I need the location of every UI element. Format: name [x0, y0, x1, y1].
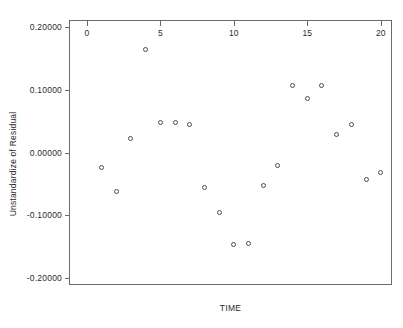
data-point [334, 132, 339, 137]
data-point [349, 122, 354, 127]
data-point [114, 189, 119, 194]
y-tick-mark [65, 153, 70, 154]
data-point [173, 120, 178, 125]
x-tick-mark [307, 21, 308, 26]
data-point [275, 163, 280, 168]
data-point [305, 96, 310, 101]
x-tick-label: 20 [376, 28, 385, 38]
y-tick-label: -0.20000 [27, 273, 62, 283]
x-tick-label: 10 [229, 28, 238, 38]
data-point [261, 183, 266, 188]
x-tick-mark [160, 21, 161, 26]
data-point [158, 120, 163, 125]
data-point [143, 47, 148, 52]
x-tick-label: 15 [303, 28, 312, 38]
y-tick-label: 0.00000 [30, 148, 62, 158]
y-tick-label: 0.20000 [30, 22, 62, 32]
data-point [202, 185, 207, 190]
x-tick-mark [87, 21, 88, 26]
data-point [378, 170, 383, 175]
data-point [231, 242, 236, 247]
data-point [187, 122, 192, 127]
x-tick-label: 5 [158, 28, 163, 38]
y-tick-label: -0.10000 [27, 210, 62, 220]
plot-area: 0.200000.100000.00000-0.10000-0.20000 05… [69, 20, 392, 285]
x-tick-mark [234, 21, 235, 26]
data-point [319, 83, 324, 88]
y-axis-title-label: Unstandardize of Residual [8, 112, 18, 217]
x-axis-title-label: TIME [220, 303, 242, 313]
data-point [364, 177, 369, 182]
x-tick-mark [381, 21, 382, 26]
scatter-plot-figure: Unstandardize of Residual 0.200000.10000… [0, 0, 403, 328]
y-axis-title: Unstandardize of Residual [6, 0, 20, 328]
y-tick-label: 0.10000 [30, 85, 62, 95]
y-tick-mark [65, 278, 70, 279]
x-tick-label: 0 [85, 28, 90, 38]
data-point [128, 136, 133, 141]
data-point [99, 165, 104, 170]
data-point [290, 83, 295, 88]
y-tick-mark [65, 90, 70, 91]
y-tick-mark [65, 215, 70, 216]
data-point [217, 210, 222, 215]
y-tick-mark [65, 27, 70, 28]
data-point [246, 241, 251, 246]
x-axis-title: TIME [69, 303, 392, 313]
